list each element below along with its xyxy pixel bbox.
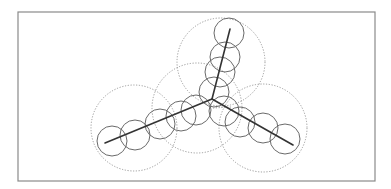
skeleton-arm-top bbox=[212, 29, 230, 99]
skeleton-arms bbox=[105, 29, 293, 145]
diagram-canvas bbox=[0, 0, 391, 189]
skeleton-arm-left bbox=[105, 99, 212, 143]
small-solid-circle bbox=[205, 57, 235, 87]
small-solid-circle bbox=[270, 124, 300, 154]
diagram-frame bbox=[18, 12, 375, 181]
star-skeleton-diagram bbox=[0, 0, 391, 189]
small-solid-circles bbox=[97, 18, 300, 156]
small-solid-circle bbox=[97, 126, 127, 156]
